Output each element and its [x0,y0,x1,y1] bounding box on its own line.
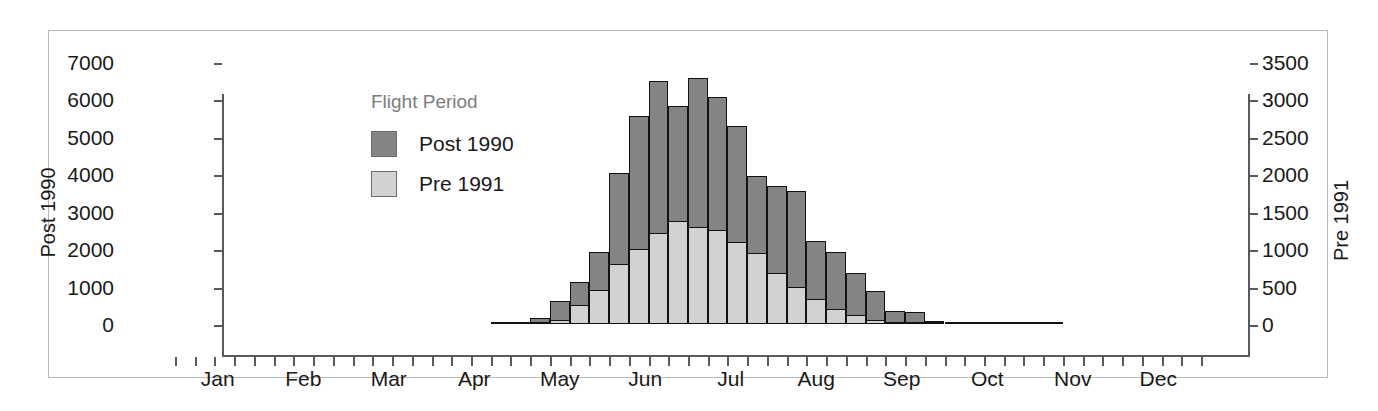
bar [491,322,511,324]
x-tick [649,357,651,366]
x-tick [727,357,729,366]
bar [589,290,609,324]
x-tick [747,357,749,366]
x-tick [451,357,453,366]
legend-item: Post 1990 [371,131,514,157]
bar [530,322,550,324]
x-tick [550,357,552,366]
y-tick-label-right: 1000 [1262,239,1309,260]
bar [727,242,747,324]
y-tick-label-left: 5000 [67,127,114,148]
bar [866,320,886,324]
y-tick-right [1250,213,1258,215]
y-tick-right [1250,288,1258,290]
bar [609,264,629,324]
y-tick-label-right: 3500 [1262,52,1309,73]
bar [826,309,846,324]
y-tick-right [1250,325,1258,327]
y-tick-left [214,325,222,327]
x-tick [195,357,197,366]
bar [1043,322,1063,324]
x-tick [372,357,374,366]
x-tick [925,357,927,366]
x-tick [234,357,236,366]
bar [510,322,530,324]
x-tick [1102,357,1104,366]
bar [1004,322,1024,324]
y-tick-label-left: 4000 [67,164,114,185]
y-tick-label-right: 500 [1262,277,1297,298]
y-tick-left [214,138,222,140]
bar [629,249,649,324]
legend-items: Post 1990Pre 1991 [371,131,514,197]
x-tick [945,357,947,366]
x-tick [905,357,907,366]
legend-swatch [371,131,397,157]
x-tick [846,357,848,366]
x-tick-label: Dec [1108,367,1208,391]
y-axis-right-line [1248,94,1250,357]
y-tick-label-left: 3000 [67,202,114,223]
y-axis-left-line [222,94,224,357]
x-tick [313,357,315,366]
x-tick [1083,357,1085,366]
y-tick-label-right: 2000 [1262,164,1309,185]
bar [550,320,570,324]
y-tick-label-left: 0 [102,314,114,335]
x-tick [708,357,710,366]
x-tick [471,357,473,366]
x-tick [530,357,532,366]
bar [570,305,590,324]
y-tick-left [214,63,222,65]
legend-item: Pre 1991 [371,171,514,197]
bar [984,322,1004,324]
bar [747,253,767,324]
x-tick [1004,357,1006,366]
x-tick [333,357,335,366]
x-tick [964,357,966,366]
x-tick [214,357,216,366]
x-tick [1122,357,1124,366]
x-tick [1181,357,1183,366]
legend-swatch [371,171,397,197]
bar [925,322,945,324]
bar [688,227,708,324]
x-tick [885,357,887,366]
bar [905,322,925,324]
x-tick [866,357,868,366]
y-tick-label-right: 1500 [1262,202,1309,223]
bar [885,322,905,324]
y-tick-label-right: 2500 [1262,127,1309,148]
y-tick-left [214,213,222,215]
legend-label: Pre 1991 [419,172,504,196]
bar [668,221,688,324]
x-tick [1142,357,1144,366]
x-tick [570,357,572,366]
x-tick [668,357,670,366]
y-tick-label-left: 6000 [67,89,114,110]
bar [945,322,965,324]
x-tick [1201,357,1203,366]
x-tick [688,357,690,366]
y-tick-label-left: 2000 [67,239,114,260]
x-tick [274,357,276,366]
y-tick-right [1250,175,1258,177]
x-axis-line [222,355,1250,357]
y-axis-right-title: Pre 1991 [1330,180,1353,261]
y-tick-right [1250,250,1258,252]
x-tick [1063,357,1065,366]
x-tick [1162,357,1164,366]
x-tick [353,357,355,366]
x-tick [510,357,512,366]
bar [1023,322,1043,324]
x-tick [806,357,808,366]
x-tick [293,357,295,366]
x-tick [984,357,986,366]
x-tick [491,357,493,366]
y-tick-right [1250,100,1258,102]
x-tick [412,357,414,366]
bar [806,299,826,324]
x-tick [1043,357,1045,366]
bar [846,315,866,324]
x-tick [392,357,394,366]
